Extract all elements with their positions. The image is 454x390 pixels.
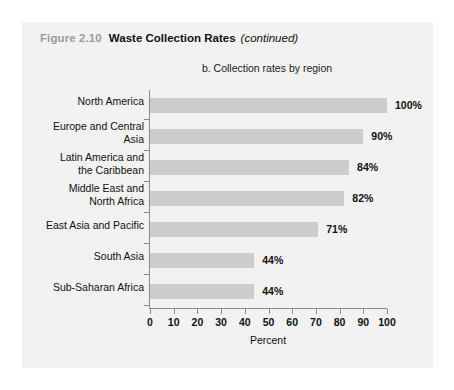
bar-value-label: 44% xyxy=(262,253,283,268)
category-label: Latin America andthe Caribbean xyxy=(26,151,144,176)
x-axis-tick xyxy=(363,309,364,314)
category-label-line: North Africa xyxy=(26,195,144,208)
y-axis-tick xyxy=(144,150,149,151)
chart-row: South Asia44% xyxy=(22,245,433,276)
bar-track: 90% xyxy=(150,129,387,144)
category-label-line: Asia xyxy=(26,133,144,146)
chart-row: Europe and CentralAsia90% xyxy=(22,121,433,152)
bar-track: 71% xyxy=(150,222,387,237)
bar-track: 44% xyxy=(150,253,387,268)
bar xyxy=(150,98,387,113)
category-label: North America xyxy=(26,95,144,108)
x-axis-tick xyxy=(174,309,175,314)
bar-track: 100% xyxy=(150,98,387,113)
chart-row: North America100% xyxy=(22,90,433,121)
x-axis-tick xyxy=(316,309,317,314)
x-axis-tick xyxy=(387,309,388,314)
chart-row: Sub-Saharan Africa44% xyxy=(22,276,433,307)
bar xyxy=(150,129,363,144)
category-label: South Asia xyxy=(26,250,144,263)
x-axis-tick xyxy=(340,309,341,314)
bar xyxy=(150,253,254,268)
bar-value-label: 90% xyxy=(371,129,392,144)
x-axis-tick xyxy=(245,309,246,314)
bar-value-label: 82% xyxy=(352,191,373,206)
bar-value-label: 84% xyxy=(357,160,378,175)
chart-row: East Asia and Pacific71% xyxy=(22,214,433,245)
category-label: Sub-Saharan Africa xyxy=(26,281,144,294)
bar xyxy=(150,222,318,237)
x-axis-tick xyxy=(197,309,198,314)
y-axis-tick xyxy=(144,212,149,213)
y-axis-tick xyxy=(144,119,149,120)
x-axis-tick xyxy=(221,309,222,314)
bar xyxy=(150,191,344,206)
category-label-line: Latin America and xyxy=(26,151,144,164)
category-label: East Asia and Pacific xyxy=(26,219,144,232)
category-label-line: Sub-Saharan Africa xyxy=(26,281,144,294)
x-axis-tick xyxy=(269,309,270,314)
category-label: Middle East andNorth Africa xyxy=(26,182,144,207)
bar xyxy=(150,284,254,299)
bar-value-label: 71% xyxy=(326,222,347,237)
category-label-line: Middle East and xyxy=(26,182,144,195)
category-label-line: Europe and Central xyxy=(26,120,144,133)
category-label-line: North America xyxy=(26,95,144,108)
bar xyxy=(150,160,349,175)
x-axis-tick xyxy=(150,309,151,314)
bar-value-label: 44% xyxy=(262,284,283,299)
category-label-line: the Caribbean xyxy=(26,164,144,177)
y-axis-tick xyxy=(144,274,149,275)
x-axis-tick xyxy=(292,309,293,314)
y-axis-tick xyxy=(144,181,149,182)
bar-track: 82% xyxy=(150,191,387,206)
chart-row: Latin America andthe Caribbean84% xyxy=(22,152,433,183)
y-axis-tick xyxy=(144,305,149,306)
bar-track: 84% xyxy=(150,160,387,175)
bar-value-label: 100% xyxy=(395,98,422,113)
figure-card: Figure 2.10Waste Collection Rates(contin… xyxy=(22,22,433,368)
bar-chart: Percent North America100%Europe and Cent… xyxy=(22,22,433,368)
category-label-line: South Asia xyxy=(26,250,144,263)
category-label-line: East Asia and Pacific xyxy=(26,219,144,232)
bar-track: 44% xyxy=(150,284,387,299)
x-axis-title: Percent xyxy=(149,334,387,346)
x-axis-tick-label: 100 xyxy=(372,316,402,328)
category-label: Europe and CentralAsia xyxy=(26,120,144,145)
chart-row: Middle East andNorth Africa82% xyxy=(22,183,433,214)
y-axis-tick xyxy=(144,243,149,244)
